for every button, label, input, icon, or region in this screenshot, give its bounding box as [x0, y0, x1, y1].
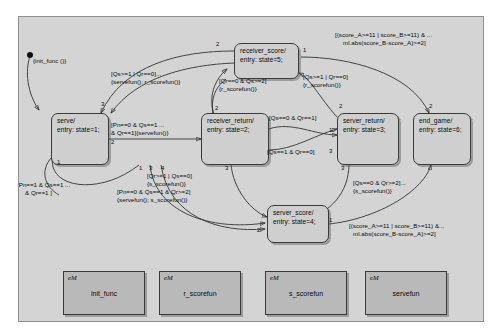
label-line-2: {servefun(); r_scorefun()}	[111, 78, 180, 85]
label-line-2: {s_scorefun()}	[353, 187, 392, 194]
label-qs1-qr0-servefun: [Qs>=1 | Qr==0]... {servefun(); r_scoref…	[111, 70, 180, 85]
transition-order-number: 2	[215, 105, 218, 111]
state-end-game-name: end_game/	[419, 117, 466, 126]
transition-order-number: 1	[139, 165, 142, 171]
state-server-return-entry: entry: state=3;	[343, 126, 394, 135]
label-line-1: [(score_A>=11 | score_B>=11) &...	[349, 222, 444, 229]
label-line-1: [Pn==0 & Qs==1 & Qr>=2]	[117, 188, 190, 195]
transition-order-number: 1	[303, 47, 306, 53]
label-line-1: [Qs==0 & Qr>=2]...	[353, 179, 406, 186]
state-serve-name: serve/	[57, 117, 104, 126]
label-line-1: [Qr==0 & Qs>=2]	[219, 77, 266, 84]
function-name-s-scorefun: s_scorefun	[266, 290, 346, 297]
label-line-1: [Pn==0 & Qs==1 ...	[111, 121, 164, 128]
label-qs1-qr0-plain: [Qs==1 & Qr==0]	[267, 148, 314, 156]
label-qs1-qr0-rscorefun: [Qs>=1 | Qr==0] {r_scorefun()}	[303, 73, 348, 88]
label-line-1: [Qs==0 & Qr==1]	[269, 114, 316, 121]
transition-order-number: 2	[429, 103, 432, 109]
label-qr0-qs2-rscorefun: [Qr==0 & Qs>=2] {r_scorefun()}	[219, 77, 266, 92]
state-serve-entry: entry: state=1;	[57, 126, 104, 135]
transition-order-number: 1	[329, 127, 332, 133]
label-line-2: & Qr==1 ]	[25, 189, 52, 196]
label-line-1: [Qs>=1 | Qr==0]...	[111, 70, 161, 77]
transition-order-number: 1	[57, 159, 60, 165]
state-server-return[interactable]: server_return/ entry: state=3;	[337, 113, 399, 165]
state-end-game-entry: entry: state=6;	[419, 126, 466, 135]
default-transition-label: {init_func ()}	[33, 57, 66, 65]
transition-order-number: 3	[329, 148, 332, 154]
transition-order-number: 1	[329, 217, 332, 223]
state-receiver-score-name: receiver_score/	[240, 47, 294, 56]
function-box-servefun[interactable]: eM servefun	[365, 271, 447, 315]
label-line-2: {r_scorefun()}	[303, 81, 341, 88]
label-line-2: ml.abs(score_B-score_A)>=2]	[353, 230, 436, 237]
function-tag: eM	[68, 274, 77, 281]
transition-order-number: 3	[101, 101, 104, 107]
label-line-1: [Qs==1 & Qr==0]	[267, 148, 314, 155]
function-name-r-scorefun: r_scorefun	[160, 290, 240, 297]
label-pn0-qs1-qr2: [Pn==0 & Qs==1 & Qr>=2] {servefun(); s_s…	[117, 188, 190, 203]
transition-order-number: 3	[341, 165, 344, 171]
state-server-score[interactable]: server_score/ entry: state=4;	[267, 205, 329, 243]
label-line-2: ml.abs(score_B-score_A)>=2]	[343, 39, 426, 46]
function-tag: eM	[370, 274, 379, 281]
state-receiver-score[interactable]: receiver_score/ entry: state=5;	[234, 43, 299, 79]
state-end-game[interactable]: end_game/ entry: state=6;	[413, 113, 471, 165]
transition-order-number: 3	[225, 165, 228, 171]
transition-order-number: 2	[111, 139, 114, 145]
state-server-score-name: server_score/	[273, 209, 324, 218]
state-receiver-score-entry: entry: state=5;	[240, 56, 294, 65]
function-box-r-scorefun[interactable]: eM r_scorefun	[159, 271, 241, 315]
transition-order-number: 4	[161, 165, 164, 171]
diagram-root: {init_func ()} serve/ entry: state=1; re…	[0, 0, 498, 334]
state-receiver-return-name: receiver_return/	[207, 117, 264, 126]
label-qs0-qr2-sscorefun: [Qs==0 & Qr>=2]... {s_scorefun()}	[353, 179, 406, 194]
label-score-endgame-bottom: [(score_A>=11 | score_B>=11) &... ml.abs…	[349, 222, 444, 237]
label-line-1: [(score_A>=11 | score_B>=11) & ...	[335, 31, 432, 38]
label-line-1: [Qs>=1 | Qr==0]	[303, 73, 348, 80]
transition-order-number: 3	[149, 165, 152, 171]
state-receiver-return[interactable]: receiver_return/ entry: state=2;	[201, 113, 269, 165]
transition-order-number: 2	[257, 227, 260, 233]
label-qs0-qr1: [Qs==0 & Qr==1]	[269, 114, 316, 122]
state-receiver-return-entry: entry: state=2;	[207, 126, 264, 135]
label-line-2: {r_scorefun()}	[219, 85, 257, 92]
function-box-s-scorefun[interactable]: eM s_scorefun	[265, 271, 347, 315]
transition-order-number: 2	[216, 41, 219, 47]
label-serve-to-receiver-return: [Pn==0 & Qs==1 ... & Qr==1]{servefun()}	[111, 121, 169, 136]
label-line-2: & Qr==1]{servefun()}	[111, 129, 169, 136]
function-name-servefun: servefun	[366, 290, 446, 297]
label-line-2: {servefun(); s_scorefun()}	[117, 196, 187, 203]
label-score-endgame-top: [(score_A>=11 | score_B>=11) & ... ml.ab…	[335, 31, 432, 46]
state-serve[interactable]: serve/ entry: state=1;	[51, 113, 109, 165]
state-server-score-entry: entry: state=4;	[273, 218, 324, 227]
function-box-init-func[interactable]: eM init_func	[63, 271, 145, 315]
label-qr1-qs0-sscorefun: [Qr>=1 | Qs==0] {s_scorefun()}	[147, 172, 192, 187]
state-server-return-name: server_return/	[343, 117, 394, 126]
function-name-init-func: init_func	[64, 290, 144, 297]
label-line-1: [Pn==1 & Qs==1 ...	[18, 181, 70, 188]
label-line-1: [Qr>=1 | Qs==0]	[147, 172, 192, 179]
label-line-2: {s_scorefun()}	[147, 180, 186, 187]
function-tag: eM	[164, 274, 173, 281]
label-pn1-qs1-qr1: [Pn==1 & Qs==1 ... & Qr==1 ]	[18, 181, 70, 196]
transition-order-number: 2	[339, 103, 342, 109]
chart-canvas[interactable]: {init_func ()} serve/ entry: state=1; re…	[18, 16, 484, 322]
function-tag: eM	[270, 274, 279, 281]
